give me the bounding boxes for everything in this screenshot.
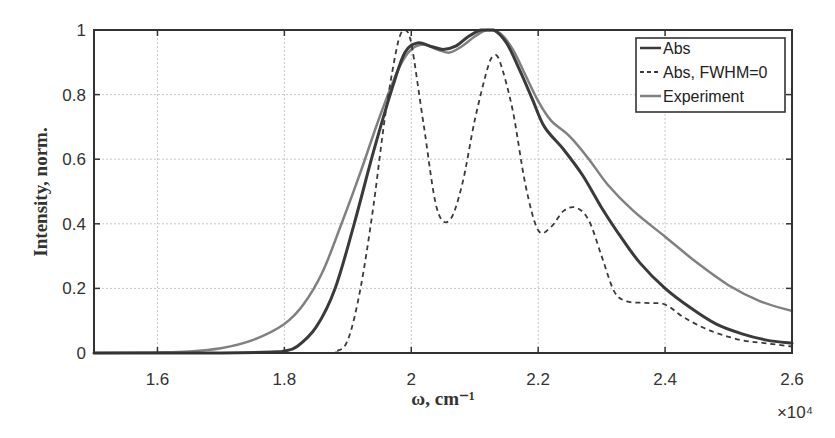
y-tick-label: 0.6: [62, 150, 86, 169]
y-axis-label: Intensity, norm.: [30, 127, 51, 256]
y-tick-label: 1: [77, 21, 86, 40]
legend-label: Abs, FWHM=0: [663, 64, 768, 81]
x-tick-label: 2: [407, 370, 416, 389]
x-tick-label: 2.6: [780, 370, 804, 389]
line-chart: 1.61.822.22.42.6 00.20.40.60.81 ω, cm⁻¹ …: [0, 0, 835, 438]
x-tick-label: 1.6: [146, 370, 170, 389]
x-tick-label: 2.2: [526, 370, 550, 389]
legend-label: Abs: [663, 40, 691, 57]
y-tick-labels: 00.20.40.60.81: [62, 21, 86, 363]
x-multiplier-label: ×10⁴: [777, 403, 813, 422]
y-tick-label: 0: [77, 344, 86, 363]
x-tick-labels: 1.61.822.22.42.6: [146, 370, 804, 389]
legend-label: Experiment: [663, 88, 744, 105]
x-tick-label: 2.4: [653, 370, 677, 389]
x-tick-label: 1.8: [273, 370, 297, 389]
legend: AbsAbs, FWHM=0Experiment: [636, 38, 785, 112]
x-axis-label: ω, cm⁻¹: [411, 388, 474, 409]
y-tick-label: 0.8: [62, 86, 86, 105]
y-tick-label: 0.4: [62, 215, 86, 234]
y-tick-label: 0.2: [62, 279, 86, 298]
